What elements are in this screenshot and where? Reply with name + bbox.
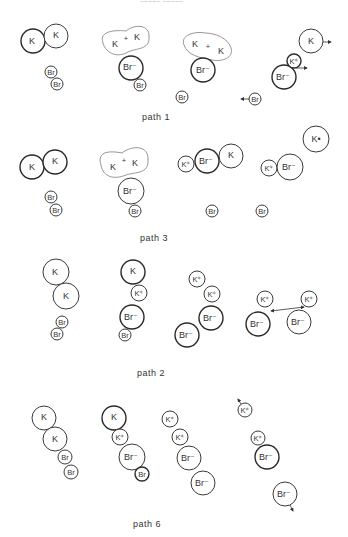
k-label: K [218,46,224,56]
k-plus-label: K⁺ [260,295,269,304]
k-plus-label: K⁺ [207,290,216,299]
br-minus-label: Br⁻ [196,65,210,75]
plus-sign: + [122,156,127,165]
k-radical-label: K• [311,134,320,144]
br-minus-label: Br⁻ [250,319,264,329]
k-label: K [130,266,136,276]
k-label: K [228,150,234,160]
k-plus-label: K⁺ [175,433,184,442]
br-label: Br [53,80,61,89]
br-label: Br [258,207,266,216]
k-plus-label: K⁺ [253,434,262,443]
br-minus-label: Br⁻ [203,313,217,323]
stage-4: K⁺ K⁺ Br⁻ Br⁻ [238,399,297,511]
k-label: K [29,36,35,46]
br-minus-label: Br⁻ [179,330,193,340]
k-plus-label: K⁺ [134,289,143,298]
stage-2: K + K Br⁻ Br [102,26,149,91]
k-label: K [110,162,116,172]
path-label: path 6 [133,519,161,529]
k-plus-label: K⁺ [240,406,249,415]
stage-4: K• K⁺ Br⁻ Br [256,126,329,217]
br-minus-label: Br⁻ [276,72,290,82]
path-label: path 3 [140,233,168,243]
panel-path-3: K K Br Br K + K Br⁻ Br K⁺ Br⁻ K Br [20,126,329,243]
stage-2: K + K Br⁻ Br [100,148,148,217]
br-minus-label: Br⁻ [123,62,137,72]
br-minus-label: Br⁻ [199,156,213,166]
br-label: Br [52,206,60,215]
path-label: path 1 [142,112,170,122]
k-label: K [52,156,58,166]
stage-1: K K Br Br [20,150,67,216]
br-minus-label: Br⁻ [259,452,273,462]
reaction-paths-diagram: ~~~~~ ~~~~~ K K Br Br K + K Br⁻ Br [0,0,348,537]
k-label: K [192,39,198,49]
br-label: Br [58,318,66,327]
stage-4: K Br⁻ K⁺ Br [241,29,331,105]
k-plus-label: K⁺ [264,164,273,173]
br-label: Br [67,468,75,477]
br-minus-label: Br⁻ [291,317,305,327]
arrow-icon [238,399,241,404]
stage-1: K K Br Br [21,24,68,90]
stage-2: K K⁺ Br⁻ Br [102,406,149,481]
br-minus-label: Br⁻ [123,186,137,196]
arrow-icon [290,505,293,511]
br-label: Br [61,453,69,462]
k-label: K [53,30,59,40]
br-label: Br [47,193,55,202]
br-minus-label: Br⁻ [181,453,195,463]
stage-3: K⁺ K⁺ Br⁻ Br⁻ [162,411,215,495]
k-plus-label: K⁺ [192,275,201,284]
k-label: K [63,291,69,301]
panel-path-1: K K Br Br K + K Br⁻ Br K + K Br⁻ Br [21,24,331,122]
stage-3: K + K Br⁻ Br [176,33,231,104]
br-minus-label: Br⁻ [195,478,209,488]
stage-3: K⁺ Br⁻ K Br [178,144,243,217]
k-label: K [52,267,58,277]
k-plus-label: K⁺ [181,160,190,169]
br-label: Br [53,330,61,339]
stage-1: K K Br Br [32,406,78,479]
panel-path-6: K K Br Br K K⁺ Br⁻ Br K⁺ K⁺ Br⁻ Br⁻ [32,399,297,529]
k-label: K [112,39,118,49]
stage-2: K K⁺ Br⁻ Br [119,260,147,341]
k-label: K [41,412,47,422]
stage-4: K⁺ Br⁻ K⁺ Br⁻ [246,291,317,336]
k-plus-label: K⁺ [165,415,174,424]
br-minus-label: Br⁻ [282,162,296,172]
panel-path-2: K K Br Br K K⁺ Br⁻ Br K⁺ K⁺ Br⁻ Br⁻ [43,259,317,378]
k-plus-label: K⁺ [289,57,298,66]
stage-3: K⁺ K⁺ Br⁻ Br⁻ [175,271,223,347]
k-label: K [29,162,35,172]
br-label: Br [138,470,146,479]
k-label: K [132,158,138,168]
page-header: ~~~~~ ~~~~~ [140,0,183,5]
k-label: K [134,32,140,42]
k-label: K [52,434,58,444]
stage-1: K K Br Br [43,259,79,340]
path-label: path 2 [137,368,165,378]
br-label: Br [251,95,259,104]
br-minus-label: Br⁻ [124,452,138,462]
br-label: Br [136,81,144,90]
br-minus-label: Br⁻ [124,312,138,322]
plus-sign: + [124,34,129,43]
k-label: K [308,36,314,46]
k-label: K [111,412,117,422]
br-minus-label: Br⁻ [277,489,291,499]
br-label: Br [121,331,129,340]
plus-sign: + [206,42,211,51]
k-plus-label: K⁺ [115,433,124,442]
br-label: Br [178,93,186,102]
br-label: Br [47,68,55,77]
br-label: Br [208,207,216,216]
br-label: Br [131,207,139,216]
k-plus-label: K⁺ [304,295,313,304]
